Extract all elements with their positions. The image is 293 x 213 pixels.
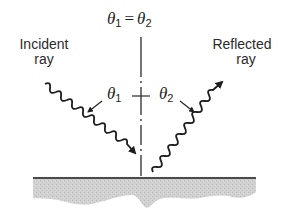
equation-operator: = [121, 9, 137, 28]
incident-ray [45, 83, 135, 153]
reflection-diagram: θ1=θ2 Incident ray Reflected ray θ1 θ2 [0, 0, 293, 213]
reflected-ray-label: Reflected ray [202, 37, 282, 67]
diagram-graphics [0, 0, 293, 213]
incident-label-line2: ray [10, 52, 78, 67]
theta2-pointer [180, 101, 194, 112]
reflecting-material [33, 179, 256, 208]
angle-theta1-label: θ1 [107, 84, 121, 104]
reflected-label-line1: Reflected [202, 37, 282, 52]
equality-equation: θ1=θ2 [107, 9, 152, 29]
angle-theta2-label: θ2 [159, 84, 173, 104]
incident-label-line1: Incident [10, 37, 78, 52]
incident-ray-label: Incident ray [10, 37, 78, 67]
equation-theta2-sub: 2 [145, 17, 151, 29]
theta1-pointer [88, 101, 102, 112]
reflected-label-line2: ray [202, 52, 282, 67]
